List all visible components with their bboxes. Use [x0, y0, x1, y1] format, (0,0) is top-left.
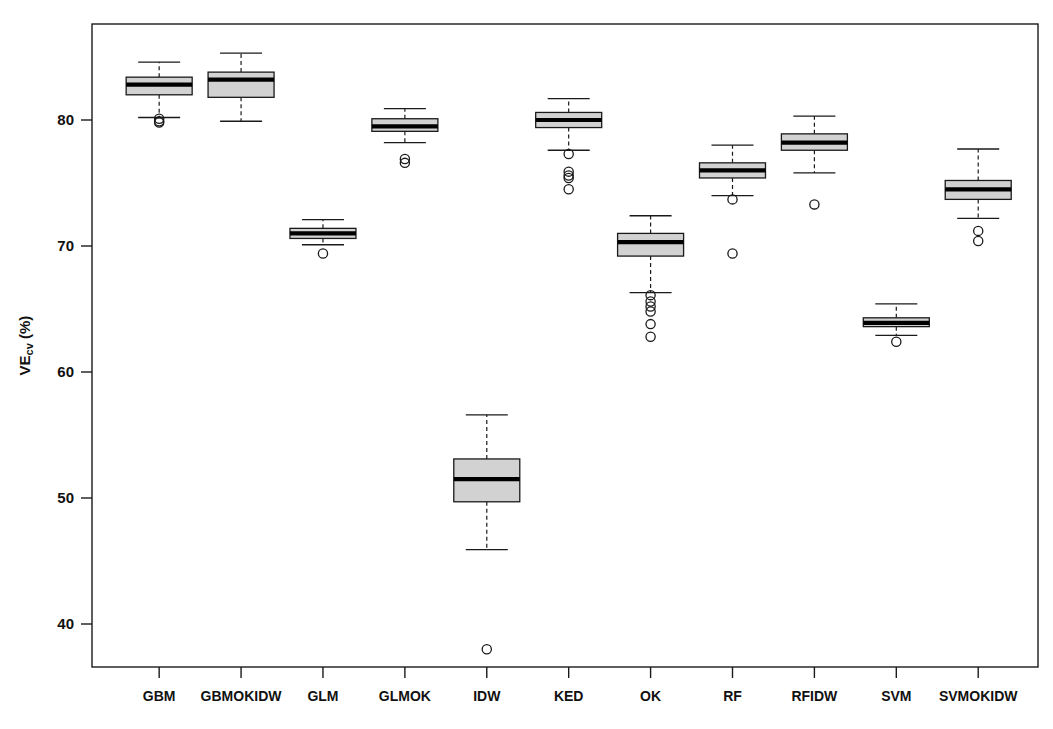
y-axis: 4050607080	[57, 111, 92, 632]
boxplot-rf	[699, 145, 765, 258]
x-tick-label: SVMOKIDW	[939, 688, 1018, 704]
boxplot-ok	[618, 216, 684, 342]
outlier-point	[482, 645, 491, 654]
boxplot-canvas: 4050607080 GBMGBMOKIDWGLMGLMOKIDWKEDOKRF…	[0, 0, 1053, 729]
boxplot-rfidw	[781, 116, 847, 209]
y-axis-title: VEcv (%)	[16, 316, 35, 376]
outlier-point	[318, 249, 327, 258]
boxplot-idw	[454, 415, 520, 654]
y-axis-title-sub: cv	[23, 342, 35, 355]
y-tick-label: 80	[57, 111, 74, 128]
x-tick-label: RFIDW	[791, 688, 838, 704]
outlier-point	[810, 200, 819, 209]
y-tick-label: 60	[57, 363, 74, 380]
outlier-point	[892, 337, 901, 346]
boxplot-gbmokidw	[208, 53, 274, 121]
x-tick-label: GLMOK	[379, 688, 431, 704]
box-series	[126, 53, 1011, 654]
boxplot-ked	[536, 99, 602, 194]
boxplot-svm	[863, 304, 929, 346]
boxplot-gbm	[126, 62, 192, 127]
x-tick-label: SVM	[881, 688, 911, 704]
boxplot-svmokidw	[945, 149, 1011, 246]
outlier-point	[564, 185, 573, 194]
x-tick-label: GBM	[143, 688, 176, 704]
boxplot-figure: 4050607080 GBMGBMOKIDWGLMGLMOKIDWKEDOKRF…	[0, 0, 1053, 729]
outlier-point	[974, 236, 983, 245]
box-iqr	[618, 233, 684, 256]
outlier-point	[974, 226, 983, 235]
x-tick-label: GBMOKIDW	[201, 688, 283, 704]
y-axis-label: VEcv (%)	[16, 316, 35, 376]
box-iqr	[208, 72, 274, 97]
x-axis: GBMGBMOKIDWGLMGLMOKIDWKEDOKRFRFIDWSVMSVM…	[143, 667, 1018, 704]
y-tick-label: 50	[57, 489, 74, 506]
outlier-point	[728, 249, 737, 258]
boxplot-glm	[290, 220, 356, 259]
x-tick-label: KED	[554, 688, 584, 704]
x-tick-label: GLM	[307, 688, 338, 704]
y-axis-title-main: VE	[16, 355, 33, 375]
outlier-point	[646, 332, 655, 341]
y-axis-title-unit: (%)	[16, 316, 33, 344]
x-tick-label: OK	[640, 688, 661, 704]
y-tick-label: 70	[57, 237, 74, 254]
x-tick-label: IDW	[473, 688, 501, 704]
x-tick-label: RF	[723, 688, 742, 704]
boxplot-glmok	[372, 109, 438, 168]
outlier-point	[646, 320, 655, 329]
y-tick-label: 40	[57, 615, 74, 632]
